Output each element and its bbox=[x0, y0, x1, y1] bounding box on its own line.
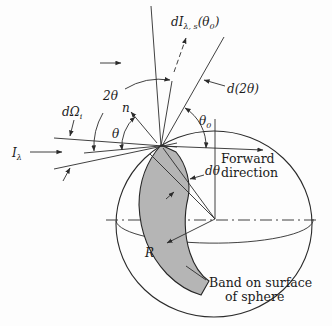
incident-intensity-label: Iλ bbox=[11, 146, 22, 162]
scattered-central-ray bbox=[161, 81, 172, 146]
scattered-wedge-left-edge bbox=[151, 6, 161, 146]
scattered-intensity-arrow bbox=[174, 38, 186, 72]
solid-angle-label: dΩi bbox=[62, 105, 83, 121]
forward-direction-label-line2: direction bbox=[221, 165, 278, 180]
forward-direction-label-line1: Forward bbox=[221, 151, 275, 166]
band-caption-line2: of sphere bbox=[225, 289, 284, 304]
dtheta-pointer-arrow bbox=[190, 175, 204, 179]
normal-label: n bbox=[122, 101, 130, 115]
solid-angle-pointer-arrow bbox=[70, 120, 74, 136]
d2theta-pointer-arrow bbox=[204, 80, 225, 86]
radius-label: R bbox=[144, 246, 154, 260]
scattering-geometry-figure: dIλ, s(θ0) d(2θ) 2θ n θ θ0 dΩi Iλ dθ For… bbox=[0, 0, 332, 326]
dtheta-label: dθ bbox=[205, 164, 221, 178]
theta-zero-label: θ0 bbox=[199, 114, 211, 130]
two-theta-arc-lower bbox=[94, 113, 103, 151]
figure-svg: dIλ, s(θ0) d(2θ) 2θ n θ θ0 dΩi Iλ dθ For… bbox=[0, 0, 332, 326]
two-theta-label: 2θ bbox=[102, 89, 119, 103]
band-caption-line1: Band on surface bbox=[209, 275, 312, 290]
theta-arc bbox=[122, 117, 135, 150]
two-theta-arc-upper bbox=[125, 79, 170, 89]
beam-width-tick-arrow bbox=[63, 168, 70, 181]
scattered-intensity-label: dIλ, s(θ0) bbox=[171, 15, 220, 31]
normal-vector-arrow bbox=[131, 112, 157, 143]
theta-label: θ bbox=[112, 127, 120, 141]
d2theta-label: d(2θ) bbox=[227, 82, 259, 96]
forward-direction-arrow bbox=[161, 146, 263, 150]
